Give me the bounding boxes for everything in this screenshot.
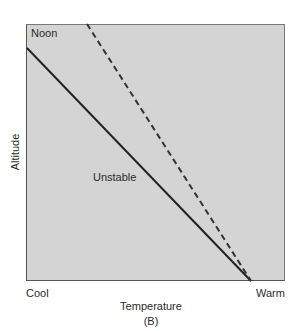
lapse-rate-lines [0,0,302,331]
panel-label: Noon [31,27,57,39]
solid-line [27,48,251,281]
x-axis-left-label: Cool [26,287,49,299]
x-axis-title: Temperature [0,300,302,312]
y-axis-title: Altitude [9,134,21,171]
unstable-label: Unstable [93,171,136,183]
dashed-line [87,24,251,281]
x-axis-right-label: Warm [256,287,285,299]
figure-caption: (B) [0,315,302,327]
